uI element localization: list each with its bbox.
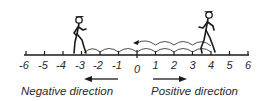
negative-direction-arrow-icon bbox=[84, 76, 118, 82]
tick-label-5: 5 bbox=[226, 60, 232, 71]
tick-label-1: 1 bbox=[152, 60, 158, 71]
tick-label-neg4: -4 bbox=[56, 60, 66, 71]
tick-label-neg3: -3 bbox=[75, 60, 85, 71]
tick-label-neg6: -6 bbox=[19, 60, 29, 71]
walker-left-figure bbox=[74, 17, 86, 54]
tick-label-4: 4 bbox=[208, 60, 214, 71]
upper-hop-arrowhead-icon bbox=[133, 40, 139, 45]
negative-direction-label: Negative direction bbox=[21, 86, 113, 98]
tick-label-3: 3 bbox=[189, 60, 195, 71]
positive-direction-arrow-icon bbox=[153, 76, 187, 82]
tick-label-neg5: -5 bbox=[38, 60, 48, 71]
tick-label-neg1: -1 bbox=[112, 60, 122, 71]
tick-label-zero: 0 bbox=[134, 64, 140, 75]
tick-label-2: 2 bbox=[171, 60, 177, 71]
tick-label-neg2: -2 bbox=[93, 60, 103, 71]
positive-direction-label: Positive direction bbox=[151, 86, 238, 98]
number-line-diagram: -6 -5 -4 -3 -2 -1 0 1 2 3 4 5 6 Negative… bbox=[0, 0, 267, 101]
walker-right-figure bbox=[199, 12, 215, 54]
upper-hop-arcs bbox=[137, 41, 211, 46]
tick-label-6: 6 bbox=[245, 60, 251, 71]
